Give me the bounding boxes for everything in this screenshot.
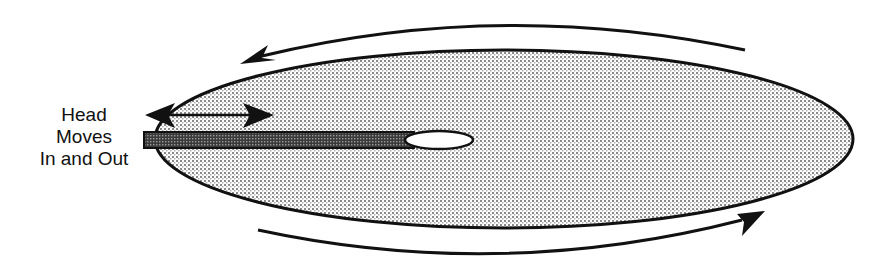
head-tip	[405, 131, 473, 149]
label-line-1: Head	[0, 104, 168, 126]
label-line-3: In and Out	[0, 148, 168, 170]
head-arm	[144, 132, 414, 148]
head-motion-label: Head Moves In and Out	[0, 104, 168, 170]
label-line-2: Moves	[0, 126, 168, 148]
